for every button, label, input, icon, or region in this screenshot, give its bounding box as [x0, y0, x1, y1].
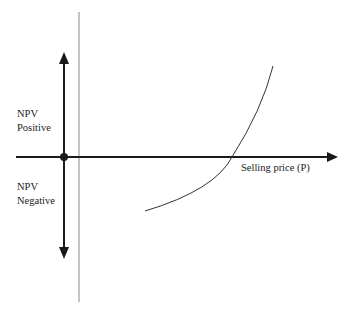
npv-positive-label-line1: NPV [17, 107, 51, 121]
npv-diagram [0, 0, 354, 314]
npv-positive-label: NPV Positive [17, 107, 51, 135]
npv-curve [145, 66, 273, 211]
npv-axis-up-arrow-icon [59, 52, 69, 64]
npv-negative-label-line2: Negative [17, 194, 55, 208]
npv-positive-label-line2: Positive [17, 121, 51, 135]
npv-axis-down-arrow-icon [59, 247, 69, 259]
npv-negative-label: NPV Negative [17, 180, 55, 208]
x-axis-label: Selling price (P) [241, 161, 310, 175]
x-axis-arrow-icon [327, 152, 338, 162]
origin-dot [60, 153, 68, 161]
npv-negative-label-line1: NPV [17, 180, 55, 194]
